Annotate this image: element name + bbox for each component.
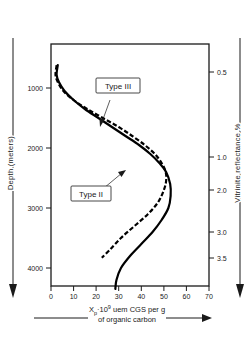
curve-type-ii	[55, 65, 166, 258]
depth-tick-1000: 1000	[27, 85, 43, 92]
reflectance-tick-1-0: 1.0	[217, 154, 227, 161]
depth-tick-3000: 3000	[27, 205, 43, 212]
y-axis-title: Depth (meters)	[6, 136, 15, 190]
y2-axis-title: Vitrinite reflectance %	[233, 123, 242, 202]
x-tick-10: 10	[70, 293, 78, 300]
x-tick-20: 20	[92, 293, 100, 300]
reflectance-ticks: 0.5 1.0 2.0 3.0 3.5	[209, 69, 227, 262]
depth-ticks: 1000 2000 3000 4000	[27, 85, 51, 272]
reflectance-tick-3-0: 3.0	[217, 229, 227, 236]
x-title-line2: of organic carbon	[98, 315, 156, 324]
x-tick-40: 40	[137, 293, 145, 300]
reflectance-tick-0-5: 0.5	[217, 69, 227, 76]
chart-figure: Depth (meters) Vitrinite reflectance % 1…	[0, 0, 252, 338]
label-type-iii: Type III	[105, 82, 131, 91]
annotation-type-ii: Type II	[71, 170, 126, 201]
x-axis-title-group: Xp·109 uem CGS per g of organic carbon	[34, 304, 212, 324]
x-tick-0: 0	[49, 293, 53, 300]
x-tick-60: 60	[183, 293, 191, 300]
svg-text:Xp·109 uem CGS per g: Xp·109 uem CGS per g	[89, 304, 165, 316]
x-tick-70: 70	[205, 293, 213, 300]
x-axis-ticks: 0 10 20 30 40 50 60 70	[49, 286, 213, 300]
reflectance-tick-3-5: 3.5	[217, 255, 227, 262]
x-title-rest: uem CGS per g	[111, 305, 165, 314]
x-tick-30: 30	[115, 293, 123, 300]
label-type-ii: Type II	[79, 190, 103, 199]
depth-tick-2000: 2000	[27, 145, 43, 152]
x-title-mid: ·10	[97, 305, 108, 314]
chart-svg: Depth (meters) Vitrinite reflectance % 1…	[0, 0, 252, 338]
curve-type-iii	[57, 65, 171, 289]
x-tick-50: 50	[160, 293, 168, 300]
annotation-type-iii: Type III	[96, 78, 140, 127]
depth-tick-4000: 4000	[27, 265, 43, 272]
reflectance-tick-2-0: 2.0	[217, 187, 227, 194]
